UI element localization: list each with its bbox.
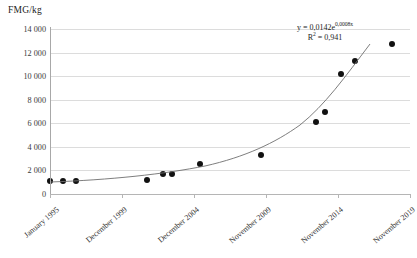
x-axis-tick (194, 194, 195, 198)
gridline (50, 100, 410, 101)
y-tick-label: 4 000 (28, 142, 46, 151)
y-tick-label: 6 000 (28, 119, 46, 128)
x-axis-tick (50, 194, 51, 198)
y-tick-label: 10 000 (23, 72, 46, 81)
r-squared-label: R2 = 0,941 (255, 31, 395, 43)
data-point (160, 171, 166, 177)
plot-area (50, 29, 410, 194)
data-point (169, 171, 175, 177)
data-point (73, 178, 79, 184)
gridline (50, 76, 410, 77)
data-point (352, 58, 358, 64)
equation-exponent: 0,0008x (335, 21, 353, 27)
gridline (50, 53, 410, 54)
x-axis-tick (266, 194, 267, 198)
gridline (50, 123, 410, 124)
y-axis-line (50, 27, 51, 196)
r-exponent: 2 (313, 31, 316, 37)
x-axis-tick (122, 194, 123, 198)
y-tick-label: 0 (42, 190, 46, 199)
data-point (258, 152, 264, 158)
x-axis-tick (410, 194, 411, 198)
data-point (60, 178, 66, 184)
r-value: = 0,941 (318, 33, 343, 42)
x-axis-line (50, 194, 410, 195)
data-point (197, 161, 203, 167)
y-tick-label: 8 000 (28, 95, 46, 104)
data-point (144, 177, 150, 183)
data-point (322, 109, 328, 115)
y-tick-label: 12 000 (23, 48, 46, 57)
gridline (50, 170, 410, 171)
y-tick-label: 2 000 (28, 166, 46, 175)
gridline (50, 147, 410, 148)
data-point (338, 71, 344, 77)
y-tick-label: 14 000 (23, 25, 46, 34)
x-axis-tick (338, 194, 339, 198)
